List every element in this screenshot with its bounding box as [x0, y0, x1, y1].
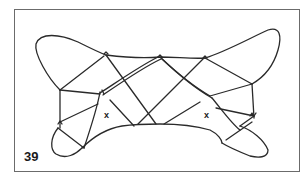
- bottom-string: [82, 124, 222, 148]
- marker-x-right: x: [204, 111, 209, 120]
- string-figure-drawing: [0, 0, 308, 184]
- marker-x-left: x: [104, 111, 109, 120]
- right-lower-loop: [222, 126, 268, 157]
- figure-number: 39: [24, 150, 38, 163]
- right-upper-loop: [205, 29, 280, 84]
